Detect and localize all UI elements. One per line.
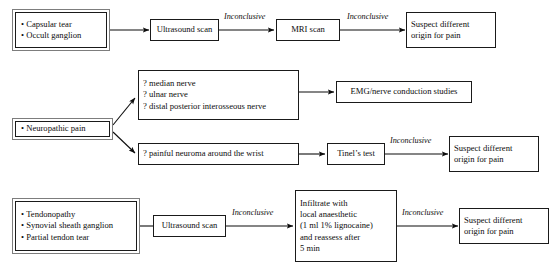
row3-outcome-line-1: Suspect different xyxy=(464,215,544,226)
row1-outcome-line-1: Suspect different xyxy=(411,19,491,30)
connector-r2-source-to-nerves xyxy=(113,98,135,125)
row2-nerve-list-box[interactable]: ? median nerve ? ulnar nerve ? distal po… xyxy=(138,70,299,120)
row1-source-box[interactable]: Capsular tear Occult ganglion xyxy=(12,9,110,51)
row2-emg-box[interactable]: EMG/nerve conduction studies xyxy=(336,81,472,103)
row3-ultrasound-label: Ultrasound scan xyxy=(162,220,218,231)
row3-edge-label-1: Inconclusive xyxy=(232,208,273,218)
row3-infiltrate-box[interactable]: Infiltrate with local anaesthetic (1 ml … xyxy=(295,190,397,262)
row2-source-box[interactable]: Neuropathic pain xyxy=(12,118,113,140)
row3-infiltrate-line-4: 5 min xyxy=(300,243,392,254)
row2-outcome-line-1: Suspect different xyxy=(454,143,534,154)
row1-source-item-0: Capsular tear xyxy=(21,19,101,30)
row2-nerve-item-1: ? ulnar nerve xyxy=(143,89,294,100)
row2-nerve-item-2: ? distal posterior interosseous nerve xyxy=(143,101,294,112)
row1-mri-box[interactable]: MRI scan xyxy=(276,19,340,41)
row1-mri-label: MRI scan xyxy=(291,24,325,35)
row2-tinel-label: Tinel’s test xyxy=(337,148,375,159)
row1-edge-label-1: Inconclusive xyxy=(224,12,265,22)
row2-tinel-box[interactable]: Tinel’s test xyxy=(327,143,385,165)
row3-source-item-2: Partial tendon tear xyxy=(21,232,131,243)
row3-infiltrate-line-1: local anaesthetic xyxy=(300,209,392,220)
row3-outcome-line-2: origin for pain xyxy=(464,226,544,237)
connector-r2-source-to-neuroma xyxy=(113,132,135,153)
row2-outcome-line-2: origin for pain xyxy=(454,154,534,165)
row2-nerve-item-0: ? median nerve xyxy=(143,78,294,89)
row3-infiltrate-line-2: (1 ml 1% lignocaine) xyxy=(300,220,392,231)
row2-emg-label: EMG/nerve conduction studies xyxy=(351,86,458,97)
row1-edge-label-2: Inconclusive xyxy=(347,12,388,22)
row2-neuroma-item-0: ? painful neuroma around the wrist xyxy=(143,148,294,159)
row2-source-item-0: Neuropathic pain xyxy=(21,123,104,134)
row3-ultrasound-box[interactable]: Ultrasound scan xyxy=(153,215,226,237)
row1-outcome-box[interactable]: Suspect different origin for pain xyxy=(406,12,496,48)
row3-infiltrate-line-0: Infiltrate with xyxy=(300,198,392,209)
row1-ultrasound-box[interactable]: Ultrasound scan xyxy=(150,19,219,41)
row2-outcome-box[interactable]: Suspect different origin for pain xyxy=(449,136,539,172)
row1-outcome-line-2: origin for pain xyxy=(411,30,491,41)
flowchart-canvas: Capsular tear Occult ganglion Ultrasound… xyxy=(0,0,560,275)
row3-edge-label-2: Inconclusive xyxy=(402,208,443,218)
row3-source-item-0: Tendonopathy xyxy=(21,209,131,220)
row3-infiltrate-line-3: and reassess after xyxy=(300,232,392,243)
row3-outcome-box[interactable]: Suspect different origin for pain xyxy=(459,208,549,244)
row3-source-box[interactable]: Tendonopathy Synovial sheath ganglion Pa… xyxy=(12,198,140,254)
row1-ultrasound-label: Ultrasound scan xyxy=(157,24,213,35)
row2-neuroma-box[interactable]: ? painful neuroma around the wrist xyxy=(138,143,299,165)
row3-source-item-1: Synovial sheath ganglion xyxy=(21,220,131,231)
row1-source-item-1: Occult ganglion xyxy=(21,30,101,41)
row2-edge-label-1: Inconclusive xyxy=(390,136,431,146)
